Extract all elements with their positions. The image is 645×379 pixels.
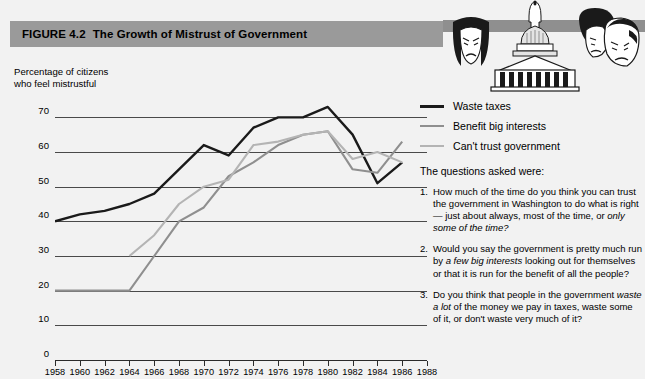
x-axis-tick <box>253 361 254 366</box>
figure-title-text: The Growth of Mistrust of Government <box>93 28 307 40</box>
y-axis-tick-label: 0 <box>19 348 49 359</box>
x-axis-tick <box>328 361 329 366</box>
question-text: Would you say the government is pretty m… <box>433 243 642 279</box>
x-axis-tick <box>402 361 403 366</box>
question-item: 3.Do you think that people in the govern… <box>420 289 642 325</box>
question-item: 1.How much of the time do you think you … <box>420 186 642 234</box>
x-axis-tick <box>154 361 155 366</box>
y-axis-caption-line1: Percentage of citizens <box>14 66 108 77</box>
figure-container: FIGURE 4.2The Growth of Mistrust of Gove… <box>0 0 645 379</box>
questions-list: 1.How much of the time do you think you … <box>420 186 642 325</box>
legend-item: Can't trust government <box>420 136 645 156</box>
y-axis-tick-label: 50 <box>19 175 49 186</box>
x-axis-tick <box>303 361 304 366</box>
y-axis-tick-label: 10 <box>19 313 49 324</box>
question-item: 2.Would you say the government is pretty… <box>420 243 642 279</box>
y-axis-tick-label: 20 <box>19 279 49 290</box>
x-axis-tick <box>105 361 106 366</box>
x-axis-tick <box>55 361 56 366</box>
questions-heading: The questions asked were: <box>420 166 642 177</box>
question-text: Do you think that people in the governme… <box>433 289 642 325</box>
x-axis-tick <box>353 361 354 366</box>
data-lines <box>55 100 427 360</box>
x-axis-tick <box>80 361 81 366</box>
man-face-light-hair-icon <box>604 18 639 66</box>
question-number: 2. <box>420 243 433 279</box>
figure-number: FIGURE 4.2 <box>22 28 86 40</box>
y-axis-tick-label: 30 <box>19 244 49 255</box>
plot-area: 010203040506070 195819601962196419661968… <box>55 100 427 360</box>
x-axis-tick <box>229 361 230 366</box>
question-text: How much of the time do you think you ca… <box>433 186 642 234</box>
y-axis-tick-label: 60 <box>19 140 49 151</box>
legend-label: Waste taxes <box>453 100 511 112</box>
x-axis-line <box>55 360 427 361</box>
line-chart: Percentage of citizens who feel mistrust… <box>10 60 435 360</box>
x-axis-tick <box>427 361 428 366</box>
legend-label: Can't trust government <box>453 140 560 152</box>
legend-swatch <box>420 145 444 147</box>
x-axis-tick <box>377 361 378 366</box>
x-axis-tick <box>278 361 279 366</box>
legend-label: Benefit big interests <box>453 120 546 132</box>
question-number: 3. <box>420 289 433 325</box>
y-axis-tick-label: 70 <box>19 105 49 116</box>
x-axis-tick <box>179 361 180 366</box>
y-axis-caption-line2: who feel mistrustful <box>14 78 96 89</box>
x-axis-tick <box>129 361 130 366</box>
legend-item: Benefit big interests <box>420 116 645 136</box>
legend-swatch <box>420 125 444 127</box>
figure-title-bar: FIGURE 4.2The Growth of Mistrust of Gove… <box>10 21 451 47</box>
questions-block: The questions asked were: 1.How much of … <box>420 166 642 334</box>
y-axis-tick-label: 40 <box>19 209 49 220</box>
capitol-and-faces-illustration <box>443 0 645 92</box>
woman-face-icon <box>453 17 489 66</box>
page-title: FIGURE 4.2The Growth of Mistrust of Gove… <box>10 28 307 40</box>
legend-swatch <box>420 105 444 108</box>
chart-legend: Waste taxesBenefit big interestsCan't tr… <box>420 96 645 156</box>
question-number: 1. <box>420 186 433 234</box>
y-axis-caption: Percentage of citizens who feel mistrust… <box>14 66 108 91</box>
legend-item: Waste taxes <box>420 96 645 116</box>
x-axis-tick <box>204 361 205 366</box>
x-axis-tick-label: 1988 <box>407 367 447 377</box>
